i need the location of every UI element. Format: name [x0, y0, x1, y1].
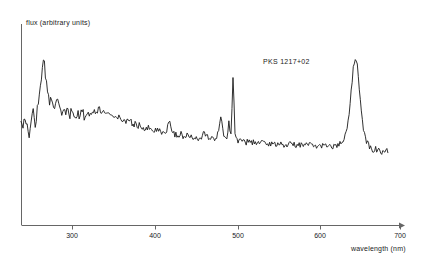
x-axis-tick-label: 300	[66, 232, 78, 239]
spectrum-trace	[21, 60, 388, 155]
spectrum-figure: flux (arbitrary units) PKS 1217+02 wavel…	[0, 0, 426, 260]
y-axis-label: flux (arbitrary units)	[26, 19, 90, 26]
x-axis-tick-label: 400	[149, 232, 161, 239]
x-axis-tick-label: 600	[314, 232, 326, 239]
x-axis-tick-label: 500	[232, 232, 244, 239]
object-name-annotation: PKS 1217+02	[263, 58, 310, 65]
x-axis-label: wavelength (nm)	[351, 245, 406, 252]
x-axis-ticks	[73, 226, 401, 230]
plot-canvas	[0, 0, 426, 260]
x-axis-tick-label: 700	[394, 232, 406, 239]
x-axis-arrowhead	[399, 223, 405, 229]
